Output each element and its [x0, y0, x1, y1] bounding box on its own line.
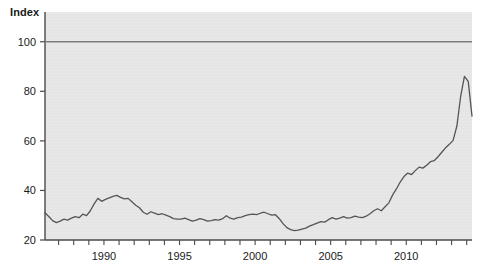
x-tick-label: 2000 — [243, 250, 267, 262]
y-tick-label: 80 — [24, 85, 36, 97]
x-tick-label: 1995 — [167, 250, 191, 262]
y-tick-label: 60 — [24, 135, 36, 147]
x-axis-ticks: 19901995200020052010 — [59, 240, 467, 262]
x-tick-label: 1990 — [92, 250, 116, 262]
y-tick-label: 40 — [24, 184, 36, 196]
y-tick-label: 100 — [18, 36, 36, 48]
x-tick-label: 2005 — [318, 250, 342, 262]
y-gridlines — [45, 15, 472, 237]
y-tick-label: 20 — [24, 234, 36, 246]
index-line-chart-figure: Index 20406080100 19901995200020052010 — [0, 0, 484, 271]
x-tick-label: 2010 — [394, 250, 418, 262]
chart-canvas: 20406080100 19901995200020052010 — [0, 0, 484, 271]
y-axis-ticks: 20406080100 — [18, 36, 45, 246]
